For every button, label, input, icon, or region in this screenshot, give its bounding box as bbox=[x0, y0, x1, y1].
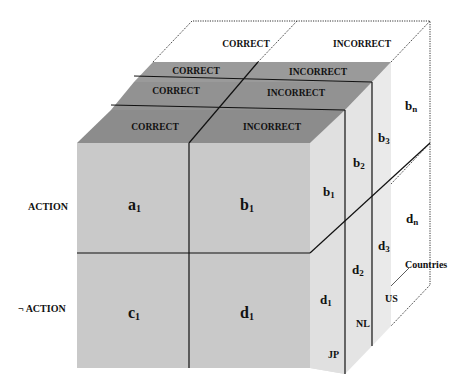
country-us-label: US bbox=[385, 293, 398, 304]
country-nl-label: NL bbox=[356, 318, 370, 329]
back-correct-label: CORRECT bbox=[222, 39, 270, 49]
cell-side-dn: dn bbox=[406, 211, 418, 227]
not-action-row-label: ¬ ACTION bbox=[18, 303, 66, 314]
countries-axis-label: Countries bbox=[405, 259, 447, 270]
cell-side-bn: bn bbox=[405, 98, 417, 114]
cube-diagram: CORRECT INCORRECT CORRECT INCORRECT CORR… bbox=[0, 0, 472, 385]
top-slab-layer-1 bbox=[77, 110, 345, 143]
side-face-front bbox=[310, 110, 345, 374]
countries-pointer-line bbox=[391, 268, 409, 286]
layer2-incorrect-label: INCORRECT bbox=[267, 88, 326, 98]
action-row-label: ACTION bbox=[28, 201, 69, 212]
front-face bbox=[77, 143, 310, 368]
layer3-incorrect-label: INCORRECT bbox=[289, 67, 348, 77]
country-jp-label: JP bbox=[328, 349, 339, 360]
layer2-correct-label: CORRECT bbox=[152, 86, 200, 96]
back-incorrect-label: INCORRECT bbox=[333, 39, 392, 49]
layer1-incorrect-label: INCORRECT bbox=[243, 122, 302, 132]
side-face-layer-2 bbox=[345, 82, 372, 374]
layer3-correct-label: CORRECT bbox=[172, 66, 220, 76]
layer1-correct-label: CORRECT bbox=[131, 122, 179, 132]
